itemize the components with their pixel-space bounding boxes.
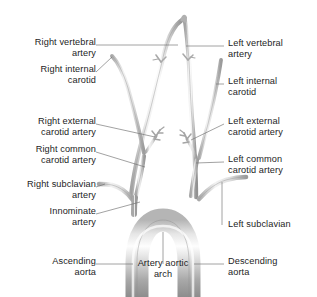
vessel-group xyxy=(99,17,246,297)
label-artery-aortic-arch: Artery aortic arch xyxy=(116,258,210,281)
left-subclavian-vessel xyxy=(199,177,246,199)
innominate-artery-vessel xyxy=(134,198,135,214)
label-left-common-carotid-artery: Left common carotid artery xyxy=(228,154,317,177)
label-right-common-carotid-artery: Right common carotid artery xyxy=(2,144,96,167)
label-right-external-carotid-artery: Right external carotid artery xyxy=(2,116,96,139)
diagram-canvas: Right vertebral artery Right internal ca… xyxy=(0,0,317,297)
leader-left-common-carotid-artery xyxy=(196,162,224,163)
label-right-vertebral-artery: Right vertebral artery xyxy=(6,37,96,60)
label-descending-aorta: Descending aorta xyxy=(228,256,317,279)
right-vertebral-artery-vessel xyxy=(131,20,182,197)
leader-right-internal-carotid xyxy=(96,57,112,72)
right-external-carotid-artery-vessel xyxy=(146,136,156,152)
label-right-internal-carotid: Right internal carotid xyxy=(6,64,96,87)
vertebral-apex-junction xyxy=(182,17,185,21)
label-left-internal-carotid: Left internal carotid xyxy=(228,76,316,99)
right-internal-carotid-vessel xyxy=(112,56,144,153)
right-vertebral-artery-outline xyxy=(131,20,182,197)
label-innominate-artery: Innominate artery xyxy=(6,206,96,229)
label-left-vertebral-artery: Left vertebral artery xyxy=(228,38,316,61)
left-internal-carotid-vessel xyxy=(199,60,221,158)
label-ascending-aorta: Ascending aorta xyxy=(14,256,96,279)
label-left-subclavian: Left subclavian xyxy=(228,219,317,230)
label-left-external-carotid-artery: Left external carotid artery xyxy=(228,116,317,139)
label-right-subclavian-artery: Right subclavian artery xyxy=(0,179,96,202)
